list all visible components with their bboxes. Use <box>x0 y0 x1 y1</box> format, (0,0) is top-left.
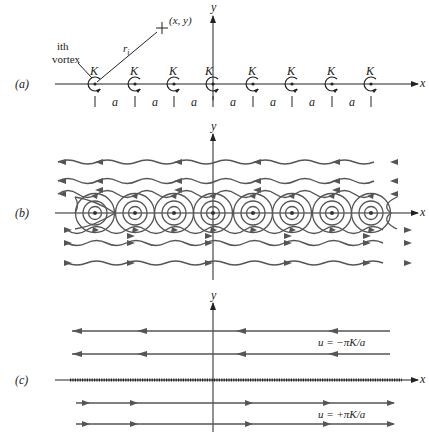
panel-b <box>55 134 418 280</box>
vortex-row-figure: (a) y x (x, y) ri ith vortex K K K K K K… <box>0 0 429 432</box>
panel-a-label: (a) <box>15 78 29 90</box>
spacing-label: a <box>191 96 197 108</box>
spacing-label: a <box>152 96 158 108</box>
vortex <box>285 77 298 93</box>
lower-velocity-label: u = +πK/a <box>318 409 365 420</box>
ith-vortex-label-line1: ith <box>57 41 69 52</box>
vortex-strength-label: K <box>287 65 295 77</box>
upper-velocity-label: u = −πK/a <box>318 337 365 348</box>
vortex-strength-label: K <box>205 65 213 77</box>
spacing-label: a <box>270 96 276 108</box>
vortex <box>167 77 180 93</box>
panel-b-x-label: x <box>420 206 425 218</box>
vortex <box>246 77 259 93</box>
vortex-strength-label: K <box>130 65 138 77</box>
spacing-label: a <box>230 96 236 108</box>
vortex <box>88 77 101 93</box>
vortex-strength-label: K <box>248 65 256 77</box>
vortex-strength-label: K <box>90 65 98 77</box>
spacing-label: a <box>349 96 355 108</box>
vortex-strength-label: K <box>327 65 335 77</box>
point-xy-label: (x, y) <box>169 15 192 26</box>
panel-b-y-label: y <box>211 120 216 132</box>
panel-b-label: (b) <box>15 207 29 219</box>
vortex <box>364 77 377 93</box>
panel-a <box>55 16 418 107</box>
spacing-label: a <box>309 96 315 108</box>
vortex-strength-label: K <box>169 65 177 77</box>
point-xy-marker <box>156 22 168 34</box>
panel-a-x-label: x <box>420 77 425 89</box>
panel-c-y-label: y <box>211 289 216 301</box>
vortex <box>325 77 338 93</box>
upper-streamlines <box>58 160 374 198</box>
ith-vortex-label-line2: vortex <box>52 54 80 65</box>
vortex <box>128 77 141 93</box>
vortex-row <box>88 77 377 93</box>
vortex-strength-label: K <box>366 65 374 77</box>
panel-a-y-label: y <box>211 1 216 13</box>
panel-c-label: (c) <box>15 374 28 386</box>
panel-c-x-label: x <box>420 373 425 385</box>
spacing-label: a <box>112 96 118 108</box>
radius-label: ri <box>123 43 130 57</box>
